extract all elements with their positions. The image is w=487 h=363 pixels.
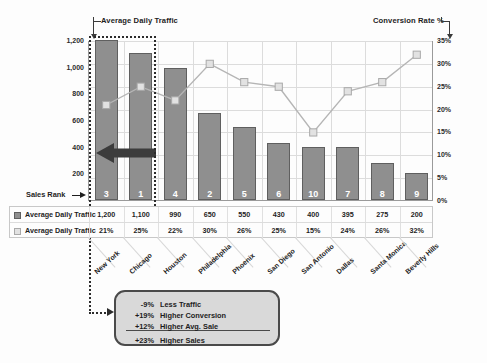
conversion-value: 15% <box>296 223 331 239</box>
gridline <box>400 41 401 200</box>
conversion-value: 24% <box>331 223 366 239</box>
line-marker <box>379 79 386 86</box>
left-axis-title: Average Daily Traffic <box>101 16 178 25</box>
conversion-value: 26% <box>227 223 262 239</box>
traffic-value: 275 <box>365 207 400 223</box>
right-axis-tick-label: 20% <box>437 106 471 113</box>
callout-row: +23%Higher Sales <box>122 332 272 343</box>
callout-percent: +12% <box>122 321 154 332</box>
x-axis-label: Dallas <box>335 256 355 275</box>
conversion-value: 25% <box>262 223 297 239</box>
x-axis-category-labels: New YorkChicagoHoustonPhiladelphiaPhoeni… <box>0 238 487 293</box>
table-separator <box>296 207 297 222</box>
line-swatch-icon <box>14 228 21 235</box>
table-separator <box>158 223 159 239</box>
sales-rank-label: Sales Rank <box>26 190 65 199</box>
sales-rank-value: 5 <box>233 189 256 199</box>
legend-label-conversion: Average Daily Traffic <box>25 223 96 239</box>
highlight-connector-horizontal <box>89 312 109 314</box>
conversion-value: 21% <box>89 223 124 239</box>
table-separator <box>124 207 125 222</box>
traffic-value: 550 <box>227 207 262 223</box>
sales-rank-value: 6 <box>267 189 290 199</box>
traffic-value: 400 <box>296 207 331 223</box>
callout-row: -9%Less Traffic <box>122 296 272 307</box>
right-axis-tick-label: 35% <box>437 37 471 44</box>
data-table: Average Daily Traffic 1,2001,10099065055… <box>9 206 433 238</box>
right-axis-tick-label: 0% <box>437 197 471 204</box>
x-axis-label: New York <box>93 249 121 275</box>
sales-rank-value: 8 <box>371 189 394 199</box>
sales-rank-value: 4 <box>164 189 187 199</box>
left-axis-tick-label: 1,000 <box>52 64 84 71</box>
traffic-value: 395 <box>331 207 366 223</box>
x-axis-label: Santa Monica <box>369 240 407 275</box>
table-row: Average Daily Traffic 21%25%22%30%26%25%… <box>10 223 432 239</box>
left-axis-tick-label: 200 <box>52 170 84 177</box>
gridline <box>331 41 332 200</box>
right-bracket-tick <box>441 17 442 22</box>
table-separator <box>227 207 228 222</box>
gridline <box>262 41 263 200</box>
right-axis-tick-label: 10% <box>437 151 471 158</box>
gridline <box>296 41 297 200</box>
table-separator <box>365 207 366 222</box>
left-axis-tick-label: 400 <box>52 144 84 151</box>
traffic-value: 990 <box>158 207 193 223</box>
conversion-value: 30% <box>193 223 228 239</box>
table-separator <box>400 207 401 222</box>
callout-text: Higher Sales <box>160 335 205 346</box>
highlight-connector-arrow-icon <box>107 308 114 316</box>
table-separator <box>193 207 194 222</box>
bar <box>198 113 221 200</box>
right-axis-tick-label: 15% <box>437 128 471 135</box>
traffic-value: 200 <box>400 207 435 223</box>
conversion-value: 22% <box>158 223 193 239</box>
traffic-value: 1,200 <box>89 207 124 223</box>
callout-row: +19%Higher Conversion <box>122 307 272 318</box>
callout-row: +12%Higher Avg. Sale <box>122 318 272 329</box>
callout-text: Higher Avg. Sale <box>160 321 218 332</box>
sales-rank-arrow-icon <box>80 192 86 198</box>
left-axis-tick-label: 600 <box>52 117 84 124</box>
left-axis-tick-label: 800 <box>52 90 84 97</box>
sales-rank-value: 9 <box>405 189 428 199</box>
table-separator <box>262 207 263 222</box>
table-separator <box>296 223 297 239</box>
callout-percent: +23% <box>122 335 154 346</box>
left-axis-tick-label: 1,200 <box>52 37 84 44</box>
bar <box>164 68 187 200</box>
table-separator <box>158 207 159 222</box>
gridline <box>227 41 228 200</box>
table-separator <box>331 207 332 222</box>
sales-rank-value: 2 <box>198 189 221 199</box>
table-separator <box>89 223 90 239</box>
conversion-value: 26% <box>365 223 400 239</box>
legend-label-traffic: Average Daily Traffic <box>25 207 96 223</box>
conversion-value: 32% <box>400 223 435 239</box>
bar-swatch-icon <box>14 212 21 219</box>
gridline <box>193 41 194 200</box>
gridline <box>365 41 366 200</box>
traffic-value: 430 <box>262 207 297 223</box>
traffic-value: 650 <box>193 207 228 223</box>
left-bracket-horizontal <box>93 21 101 22</box>
conversion-value: 25% <box>124 223 159 239</box>
right-axis-tick-label: 30% <box>437 60 471 67</box>
x-axis-label: San Diego <box>266 247 296 275</box>
x-axis-label: Houston <box>162 251 188 275</box>
sales-rank-value: 7 <box>336 189 359 199</box>
table-separator <box>227 223 228 239</box>
chart-page: Average Daily Traffic Conversion Rate % … <box>0 0 487 363</box>
right-axis-tick-label: 25% <box>437 83 471 90</box>
right-axis-tick-label: 5% <box>437 174 471 181</box>
table-row: Average Daily Traffic 1,2001,10099065055… <box>10 207 432 223</box>
line-marker <box>241 79 248 86</box>
table-separator <box>365 223 366 239</box>
gridline <box>158 41 159 200</box>
sales-rank-value: 10 <box>302 189 325 199</box>
right-axis-title: Conversion Rate % <box>373 16 444 25</box>
line-marker <box>413 51 420 58</box>
table-separator <box>89 207 90 222</box>
line-marker <box>344 88 351 95</box>
